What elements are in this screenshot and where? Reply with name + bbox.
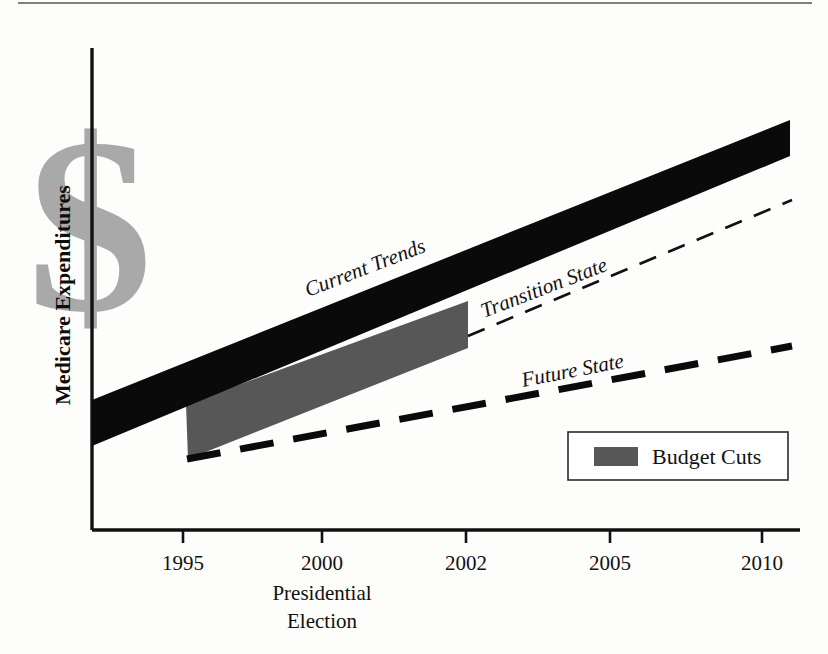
x-tick-label-2005: 2005: [589, 551, 631, 575]
medicare-expenditures-chart: $ 1995 2000 2002 2005 2010 Presidential …: [0, 0, 828, 654]
x-tick-label-1995: 1995: [162, 551, 204, 575]
legend: Budget Cuts: [568, 432, 788, 480]
y-axis-title: Medicare Expenditures: [50, 185, 75, 405]
current-trends-band: [92, 120, 790, 446]
x-tick-label-2002: 2002: [445, 551, 487, 575]
x-axis-ticks: [183, 530, 762, 543]
x-tick-label-2000: 2000: [301, 551, 343, 575]
chart-figure: $ 1995 2000 2002 2005 2010 Presidential …: [0, 0, 828, 654]
x-axis-title-line1: Presidential: [272, 581, 371, 605]
dollar-watermark-icon: $: [28, 87, 153, 364]
x-axis-title-line2: Election: [287, 609, 357, 633]
x-tick-label-2010: 2010: [741, 551, 783, 575]
legend-label-budget-cuts: Budget Cuts: [652, 444, 761, 469]
x-axis-tick-labels: 1995 2000 2002 2005 2010: [162, 551, 783, 575]
legend-swatch-budget-cuts: [594, 447, 638, 466]
